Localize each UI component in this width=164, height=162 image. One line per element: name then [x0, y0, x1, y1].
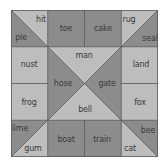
word-toe: toe — [60, 24, 72, 33]
word-bell: bell — [78, 105, 92, 114]
grid-lines — [11, 10, 158, 157]
word-fox: fox — [134, 98, 146, 107]
word-cake: cake — [94, 24, 112, 33]
word-train: train — [93, 135, 111, 144]
word-seal: seal — [142, 34, 157, 43]
word-grid-diagram: hit pie toe cake rug seal nust man land … — [11, 10, 158, 157]
word-gate: gate — [98, 79, 115, 88]
word-nust: nust — [21, 60, 38, 69]
word-frog: frog — [21, 98, 36, 107]
word-rug: rug — [123, 15, 136, 24]
word-gum: gum — [24, 144, 41, 153]
word-man: man — [75, 51, 92, 60]
word-hit: hit — [36, 15, 46, 24]
word-bee: bee — [141, 126, 155, 135]
grid-background — [11, 10, 158, 157]
word-hose: hose — [54, 79, 72, 88]
word-lime: lime — [12, 124, 28, 133]
word-boat: boat — [57, 135, 74, 144]
word-land: land — [133, 60, 149, 69]
word-cat: cat — [124, 144, 136, 153]
word-pie: pie — [15, 33, 27, 42]
